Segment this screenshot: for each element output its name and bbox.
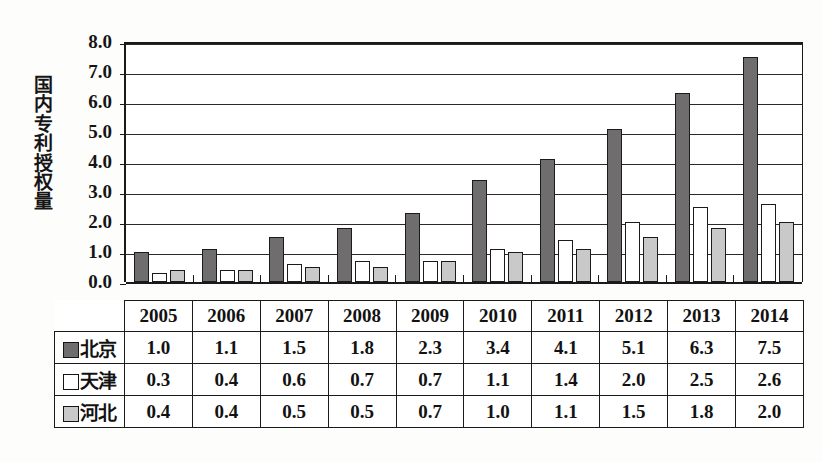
table-corner-cell — [55, 301, 125, 332]
bar-天津-2007 — [287, 264, 302, 282]
table-cell: 0.7 — [396, 396, 464, 428]
bar-北京-2008 — [337, 228, 352, 282]
table-cell: 1.8 — [668, 396, 736, 428]
table-cell: 1.5 — [260, 332, 328, 364]
gridline — [126, 282, 802, 284]
table-header-year: 2013 — [668, 301, 736, 332]
table-header-year: 2014 — [736, 301, 804, 332]
bar-group-2005 — [126, 44, 194, 282]
bar-group-2009 — [396, 44, 464, 282]
light-gray-swatch-icon — [63, 406, 79, 422]
table-cell: 1.8 — [328, 332, 396, 364]
table-cell: 1.0 — [125, 332, 193, 364]
table-cell: 0.6 — [260, 364, 328, 396]
y-axis-tick-label: 6.0 — [88, 91, 112, 113]
bar-北京-2011 — [540, 159, 555, 282]
bar-group-2013 — [667, 44, 735, 282]
bar-河北-2009 — [441, 261, 456, 282]
bar-天津-2010 — [490, 249, 505, 282]
y-axis-tick-label: 4.0 — [88, 151, 112, 173]
bar-北京-2007 — [269, 237, 284, 282]
bar-group-2007 — [261, 44, 329, 282]
y-axis-title-char: 内 — [26, 95, 60, 114]
table-cell: 5.1 — [600, 332, 668, 364]
table-cell: 6.3 — [668, 332, 736, 364]
y-axis-title: 国内专利授权量 — [26, 76, 60, 212]
table-header-year: 2006 — [192, 301, 260, 332]
white-swatch-icon — [63, 374, 79, 390]
bar-河北-2012 — [643, 237, 658, 282]
bar-河北-2006 — [238, 270, 253, 282]
table-body: 北京1.01.11.51.82.33.44.15.16.37.5天津0.30.4… — [55, 332, 804, 428]
legend-label-text: 北京 — [80, 334, 117, 361]
bar-河北-2011 — [576, 249, 591, 282]
y-axis-title-char: 利 — [26, 134, 60, 153]
table-header-year: 2012 — [600, 301, 668, 332]
bar-天津-2006 — [220, 270, 235, 282]
bar-group-2006 — [194, 44, 262, 282]
bar-天津-2008 — [355, 261, 370, 282]
bar-天津-2005 — [152, 273, 167, 282]
dark-gray-swatch-icon — [63, 342, 79, 358]
y-axis-title-char: 量 — [26, 192, 60, 211]
table-row: 河北0.40.40.50.50.71.01.11.51.82.0 — [55, 396, 804, 428]
y-axis-tick-label: 7.0 — [88, 61, 112, 83]
data-table: 2005200620072008200920102011201220132014… — [54, 300, 804, 428]
legend-label-天津: 天津 — [55, 364, 125, 396]
y-axis-tick-labels: 8.07.06.05.04.03.02.01.00.0 — [66, 42, 118, 282]
bar-北京-2006 — [202, 249, 217, 282]
bar-北京-2014 — [743, 57, 758, 282]
chart-figure: 国内专利授权量 8.07.06.05.04.03.02.01.00.0 2005… — [0, 0, 822, 462]
y-axis-tick-label: 8.0 — [88, 31, 112, 53]
bar-天津-2013 — [693, 207, 708, 282]
table-cell: 4.1 — [532, 332, 600, 364]
bar-河北-2010 — [508, 252, 523, 282]
bar-北京-2013 — [675, 93, 690, 282]
bar-天津-2011 — [558, 240, 573, 282]
bar-天津-2009 — [423, 261, 438, 282]
table-cell: 0.5 — [260, 396, 328, 428]
table-cell: 1.1 — [464, 364, 532, 396]
bar-group-2011 — [532, 44, 600, 282]
bar-北京-2005 — [134, 252, 149, 282]
table-cell: 0.3 — [125, 364, 193, 396]
table-cell: 0.4 — [192, 396, 260, 428]
y-axis-tick-label: 2.0 — [88, 211, 112, 233]
table-cell: 2.0 — [600, 364, 668, 396]
table-cell: 0.4 — [192, 364, 260, 396]
y-axis-tick-label: 1.0 — [88, 241, 112, 263]
bar-天津-2014 — [761, 204, 776, 282]
legend-label-text: 天津 — [80, 366, 117, 393]
bar-group-2008 — [329, 44, 397, 282]
bar-北京-2010 — [472, 180, 487, 282]
bar-北京-2012 — [607, 129, 622, 282]
y-axis-tick-label: 0.0 — [88, 271, 112, 293]
table-header-year: 2007 — [260, 301, 328, 332]
table-header-year: 2008 — [328, 301, 396, 332]
legend-label-河北: 河北 — [55, 396, 125, 428]
table-header-year: 2009 — [396, 301, 464, 332]
bar-河北-2007 — [305, 267, 320, 282]
y-axis-title-char: 权 — [26, 173, 60, 192]
bar-北京-2009 — [405, 213, 420, 282]
y-axis-title-char: 专 — [26, 115, 60, 134]
legend-label-北京: 北京 — [55, 332, 125, 364]
bar-天津-2012 — [625, 222, 640, 282]
table-cell: 1.4 — [532, 364, 600, 396]
table-cell: 1.0 — [464, 396, 532, 428]
y-axis-title-char: 授 — [26, 154, 60, 173]
table-cell: 1.1 — [532, 396, 600, 428]
bar-河北-2014 — [779, 222, 794, 282]
plot-area — [124, 42, 803, 282]
table-cell: 2.0 — [736, 396, 804, 428]
bar-河北-2013 — [711, 228, 726, 282]
y-axis-tick-label: 3.0 — [88, 181, 112, 203]
y-axis-title-char: 国 — [26, 76, 60, 95]
table-cell: 3.4 — [464, 332, 532, 364]
table-cell: 2.3 — [396, 332, 464, 364]
bar-group-2010 — [464, 44, 532, 282]
bar-groups — [126, 44, 802, 282]
table-header-row: 2005200620072008200920102011201220132014 — [55, 301, 804, 332]
y-axis-tick-label: 5.0 — [88, 121, 112, 143]
table-cell: 0.7 — [396, 364, 464, 396]
